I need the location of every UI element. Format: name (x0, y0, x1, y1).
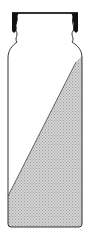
liquid-fill (8, 56, 82, 227)
cap-right-lip (71, 13, 78, 33)
cap-left-lip (12, 13, 19, 33)
vial-diagram (0, 0, 88, 240)
